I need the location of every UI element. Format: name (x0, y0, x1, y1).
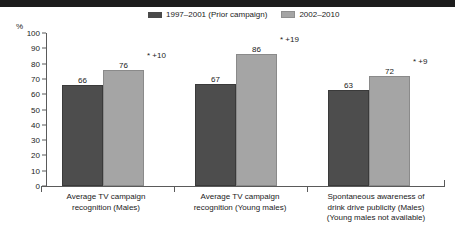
bar-prior-group-0[interactable]: 66 (62, 85, 103, 186)
bar-value-label: 63 (344, 81, 353, 90)
bar-prior-group-1[interactable]: 67 (195, 84, 236, 187)
legend-item-current: 2002–2010 (281, 10, 339, 19)
bar-value-label: 67 (211, 75, 220, 84)
significance-annotation-group-2: * +9 (413, 57, 427, 66)
y-axis-tick-mark (42, 33, 46, 34)
y-axis-tick-mark (42, 109, 46, 110)
category-label-1-line-1: recognition (Young males) (170, 203, 310, 214)
category-label-1-line-0: Average TV campaign (170, 192, 310, 203)
category-label-1: Average TV campaign recognition (Young m… (170, 192, 310, 213)
category-label-0-line-1: recognition (Males) (36, 203, 176, 214)
y-axis-tick-mark (42, 78, 46, 79)
bar-current-group-2[interactable]: 72 (369, 76, 410, 186)
bar-prior-group-2[interactable]: 63 (328, 90, 369, 186)
y-axis-tick-mark (42, 155, 46, 156)
category-label-0-line-0: Average TV campaign (36, 192, 176, 203)
bar-value-label: 86 (252, 45, 261, 54)
category-label-0: Average TV campaign recognition (Males) (36, 192, 176, 213)
y-axis-tick-mark (42, 124, 46, 125)
legend-label-current: 2002–2010 (299, 10, 339, 19)
chart-screenshot: 1997–2001 (Prior campaign) 2002–2010 % 1… (0, 0, 455, 232)
y-axis-tick-mark (42, 140, 46, 141)
category-label-2-line-2: (Young males not available) (305, 213, 447, 224)
top-header-band (0, 0, 455, 7)
category-label-2-line-1: drink drive publicity (Males) (305, 203, 447, 214)
significance-annotation-group-0: * +10 (147, 51, 166, 60)
legend-item-prior: 1997–2001 (Prior campaign) (148, 10, 267, 19)
legend-swatch-icon-prior (148, 12, 162, 18)
bar-current-group-1[interactable]: 86 (236, 54, 277, 186)
significance-annotation-group-1: * +19 (280, 35, 299, 44)
legend-swatch-icon-current (281, 11, 295, 18)
chart-legend: 1997–2001 (Prior campaign) 2002–2010 (148, 10, 339, 19)
y-axis-tick-mark (42, 48, 46, 49)
legend-label-prior: 1997–2001 (Prior campaign) (166, 10, 267, 19)
x-axis-line (41, 186, 445, 187)
bar-value-label: 66 (78, 76, 87, 85)
y-axis-tick-mark (42, 186, 46, 187)
plot-area: 1009080706050403020100 6676* +106786* +1… (46, 33, 445, 186)
category-label-2: Spontaneous awareness of drink drive pub… (305, 192, 447, 224)
y-axis-tick-mark (42, 170, 46, 171)
y-axis-tick-mark (42, 63, 46, 64)
bar-value-label: 76 (119, 61, 128, 70)
bar-value-label: 72 (385, 67, 394, 76)
y-axis-tick-mark (42, 94, 46, 95)
bar-current-group-0[interactable]: 76 (103, 70, 144, 186)
category-label-2-line-0: Spontaneous awareness of (305, 192, 447, 203)
y-axis-unit-label: % (16, 22, 23, 31)
